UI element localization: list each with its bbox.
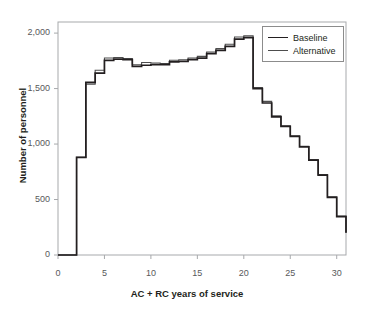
legend-swatch-alternative: [268, 50, 288, 51]
legend-item-baseline: Baseline: [268, 31, 336, 44]
chart-figure: Number of personnel AC + RC years of ser…: [0, 0, 374, 311]
legend-item-alternative: Alternative: [268, 44, 336, 57]
legend-label-baseline: Baseline: [293, 33, 328, 43]
chart-legend: Baseline Alternative: [262, 26, 344, 62]
legend-label-alternative: Alternative: [293, 46, 336, 56]
legend-swatch-baseline: [268, 37, 288, 38]
